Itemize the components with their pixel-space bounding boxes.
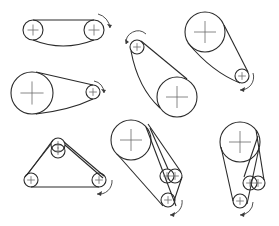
drive-large-top-small-bottom	[185, 12, 254, 92]
drive-two-pulley-equal	[23, 14, 112, 46]
pulley	[235, 69, 249, 83]
belt-segment	[27, 140, 53, 175]
rotation-arrow-icon	[98, 14, 112, 28]
belt-segment	[221, 147, 233, 201]
drive-triangle-with-tensioner	[24, 138, 112, 196]
belt-segment	[188, 43, 240, 83]
belt-segment	[117, 154, 163, 206]
belt-segment	[141, 41, 187, 79]
pulley	[161, 193, 175, 207]
pulley	[23, 20, 43, 40]
pulley	[24, 173, 38, 187]
belt-segment	[36, 99, 93, 114]
pulley	[11, 72, 53, 114]
belt-drive-diagram	[0, 0, 279, 226]
pulley	[86, 85, 100, 99]
rotation-arrow-icon	[170, 200, 182, 217]
pulley	[157, 77, 197, 117]
belt-segment	[131, 51, 160, 108]
pulley	[84, 20, 104, 40]
pulley	[130, 40, 144, 54]
belt-segment	[36, 72, 93, 85]
drive-large-small-horizontal	[11, 72, 106, 114]
belt-segment	[64, 142, 104, 176]
drive-small-top-large-bottom	[125, 31, 197, 117]
pulley	[220, 122, 260, 162]
belt-segment	[224, 25, 248, 72]
belt-segment	[148, 124, 181, 172]
pulley	[233, 194, 247, 208]
diagram-svg	[0, 0, 279, 226]
pulley	[111, 120, 151, 160]
belt-segment	[33, 40, 94, 46]
drive-large-with-double-idler	[111, 120, 182, 217]
drive-vertical-with-double-idler	[220, 122, 265, 217]
pulley	[185, 12, 225, 52]
